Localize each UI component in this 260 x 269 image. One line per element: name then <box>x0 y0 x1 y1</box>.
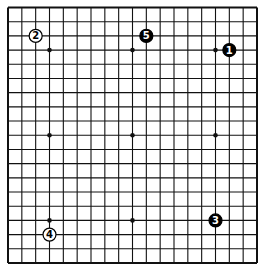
star-point <box>213 48 218 53</box>
stone-black-3: 3 <box>209 214 222 227</box>
stone-white-4: 4 <box>43 228 56 241</box>
go-board: 12345 <box>0 0 260 269</box>
star-point <box>47 218 52 223</box>
move-number: 3 <box>212 215 219 226</box>
star-point <box>213 133 218 138</box>
star-point <box>130 218 135 223</box>
move-number: 1 <box>226 45 233 56</box>
star-point <box>130 133 135 138</box>
stone-white-2: 2 <box>29 29 42 42</box>
star-point <box>47 133 52 138</box>
star-point <box>47 48 52 53</box>
stone-black-1: 1 <box>223 44 236 57</box>
move-number: 5 <box>143 30 150 41</box>
move-number: 2 <box>32 30 39 41</box>
star-point <box>130 48 135 53</box>
stone-black-5: 5 <box>140 29 153 42</box>
move-number: 4 <box>46 229 53 240</box>
